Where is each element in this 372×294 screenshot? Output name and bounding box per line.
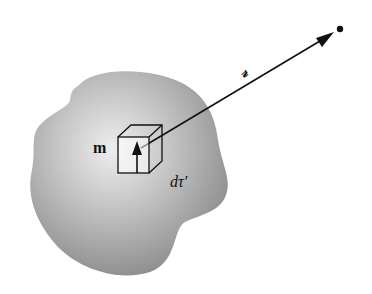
field-point-dot: [337, 26, 343, 32]
magnetized-object-diagram: [0, 0, 372, 294]
separation-vector-label: 𝓇: [241, 63, 248, 81]
dipole-moment-label: m: [93, 139, 106, 157]
volume-element-label: dτ′: [170, 173, 187, 191]
separation-vector-arrowhead-icon: [316, 32, 334, 47]
